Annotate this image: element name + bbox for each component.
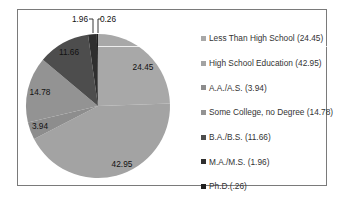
pie-data-label: 42.95 [112,159,133,169]
legend-swatch-icon [201,61,206,66]
pie-data-label: 24.45 [133,62,154,72]
legend-item: M.A./M.S. (1.96) [201,149,333,174]
legend-label: B.A./B.S. (11.66) [209,132,271,142]
legend-label: Some College, no Degree (14.78) [209,107,333,117]
legend-swatch-icon [201,110,206,115]
legend-item: High School Education (42.95) [201,51,333,76]
legend-swatch-icon [201,85,206,90]
legend-swatch-icon [201,159,206,164]
pie-data-label: 1.96 [72,14,89,24]
legend-item: Ph.D.(.26) [201,174,333,199]
legend-item: Less Than High School (24.45) [201,26,333,51]
legend-label: High School Education (42.95) [209,58,322,68]
legend-item: A.A./A.S. (3.94) [201,75,333,100]
pie-data-label: 3.94 [32,121,49,131]
legend-swatch-icon [201,184,206,189]
legend-item: Some College, no Degree (14.78) [201,100,333,125]
legend-label: Less Than High School (24.45) [209,33,323,43]
legend-swatch-icon [201,36,206,41]
legend-label: Ph.D.(.26) [209,181,247,191]
pie-data-label: 11.66 [59,47,80,57]
legend-label: M.A./M.S. (1.96) [209,157,269,167]
legend-label: A.A./A.S. (3.94) [209,83,267,93]
legend-item: B.A./B.S. (11.66) [201,125,333,150]
leader-line [89,19,93,33]
chart-legend: Less Than High School (24.45) High Schoo… [201,26,333,199]
pie-data-label: 0.26 [100,14,117,24]
legend-swatch-icon [201,135,206,140]
pie-data-label: 14.78 [30,87,51,97]
